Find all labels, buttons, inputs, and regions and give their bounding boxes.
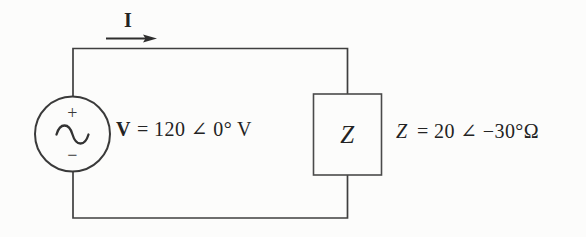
wire-lower-loop (73, 171, 348, 218)
impedance-label: Z = 20 ∠ −30°Ω (396, 120, 539, 142)
voltage-label: V = 120 ∠ 0° V (116, 118, 252, 140)
circuit-svg: I + − V = 120 ∠ 0° V Z Z = 20 ∠ −30°Ω (0, 0, 586, 237)
impedance-value: = 20 ∠ −30°Ω (417, 120, 539, 142)
impedance-symbol: Z (396, 120, 408, 142)
ac-voltage-source: + − (35, 97, 110, 172)
voltage-symbol: V (116, 118, 131, 140)
impedance-box-letter: Z (340, 121, 355, 148)
circuit-diagram: I + − V = 120 ∠ 0° V Z Z = 20 ∠ −30°Ω (0, 0, 586, 237)
minus-sign: − (67, 145, 78, 165)
current-label: I (124, 9, 132, 31)
current-arrow: I (106, 9, 157, 42)
plus-sign: + (67, 103, 78, 123)
voltage-value: = 120 ∠ 0° V (137, 118, 252, 140)
wire-upper-loop (73, 49, 348, 98)
impedance-element: Z (314, 94, 382, 175)
